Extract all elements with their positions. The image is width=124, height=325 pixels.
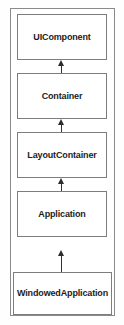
class-node-label: UIComponent [33, 33, 90, 42]
class-node-label: Container [42, 92, 83, 101]
class-node-container[interactable]: Container [17, 73, 107, 119]
inheritance-diagram: UIComponent Container LayoutContainer Ap… [0, 0, 124, 325]
generalization-arrow-layoutcontainer-to-container [61, 119, 62, 132]
generalization-arrow-windowedapplication-to-application [61, 250, 62, 272]
generalization-arrow-application-to-layoutcontainer [61, 178, 62, 191]
class-node-label: WindowedApplication [17, 289, 108, 298]
class-node-uicomponent[interactable]: UIComponent [17, 14, 107, 60]
arrow-shaft [61, 182, 62, 191]
class-node-layoutcontainer[interactable]: LayoutContainer [17, 132, 107, 178]
arrow-shaft [61, 123, 62, 132]
class-node-label: LayoutContainer [27, 151, 96, 160]
generalization-arrow-container-to-uicomponent [61, 60, 62, 73]
class-node-application[interactable]: Application [17, 191, 107, 237]
class-hierarchy-chain: UIComponent Container LayoutContainer Ap… [0, 0, 124, 325]
arrow-shaft [61, 254, 62, 272]
arrow-shaft [61, 64, 62, 73]
class-node-windowedapplication[interactable]: WindowedApplication [13, 272, 112, 315]
class-node-label: Application [38, 210, 85, 219]
